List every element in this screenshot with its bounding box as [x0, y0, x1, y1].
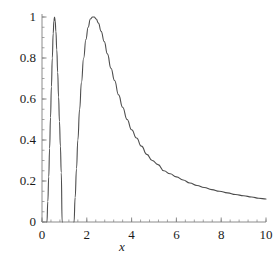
y-tick-label: 0 [30, 215, 37, 228]
y-tick-label: 0.8 [20, 51, 36, 64]
y-axis-ticks [42, 17, 47, 222]
y-tick-label: 0.4 [20, 133, 36, 146]
x-tick-label: 6 [164, 228, 188, 241]
series-line-0-0 [47, 17, 62, 222]
x-tick-label: 0 [30, 228, 54, 241]
chart-figure: 00.20.40.60.81 0246810 x [0, 0, 280, 260]
x-tick-label: 10 [254, 228, 278, 241]
y-tick-label: 1 [30, 10, 37, 23]
x-tick-label: 8 [209, 228, 233, 241]
x-axis-ticks [42, 218, 266, 223]
y-tick-label: 0.6 [20, 92, 36, 105]
y-tick-label: 0.2 [20, 174, 36, 187]
x-axis-label: x [119, 240, 125, 253]
data-series-group [47, 17, 266, 222]
x-tick-label: 2 [75, 228, 99, 241]
plot-canvas [0, 0, 280, 260]
series-line-0-1 [74, 17, 266, 222]
